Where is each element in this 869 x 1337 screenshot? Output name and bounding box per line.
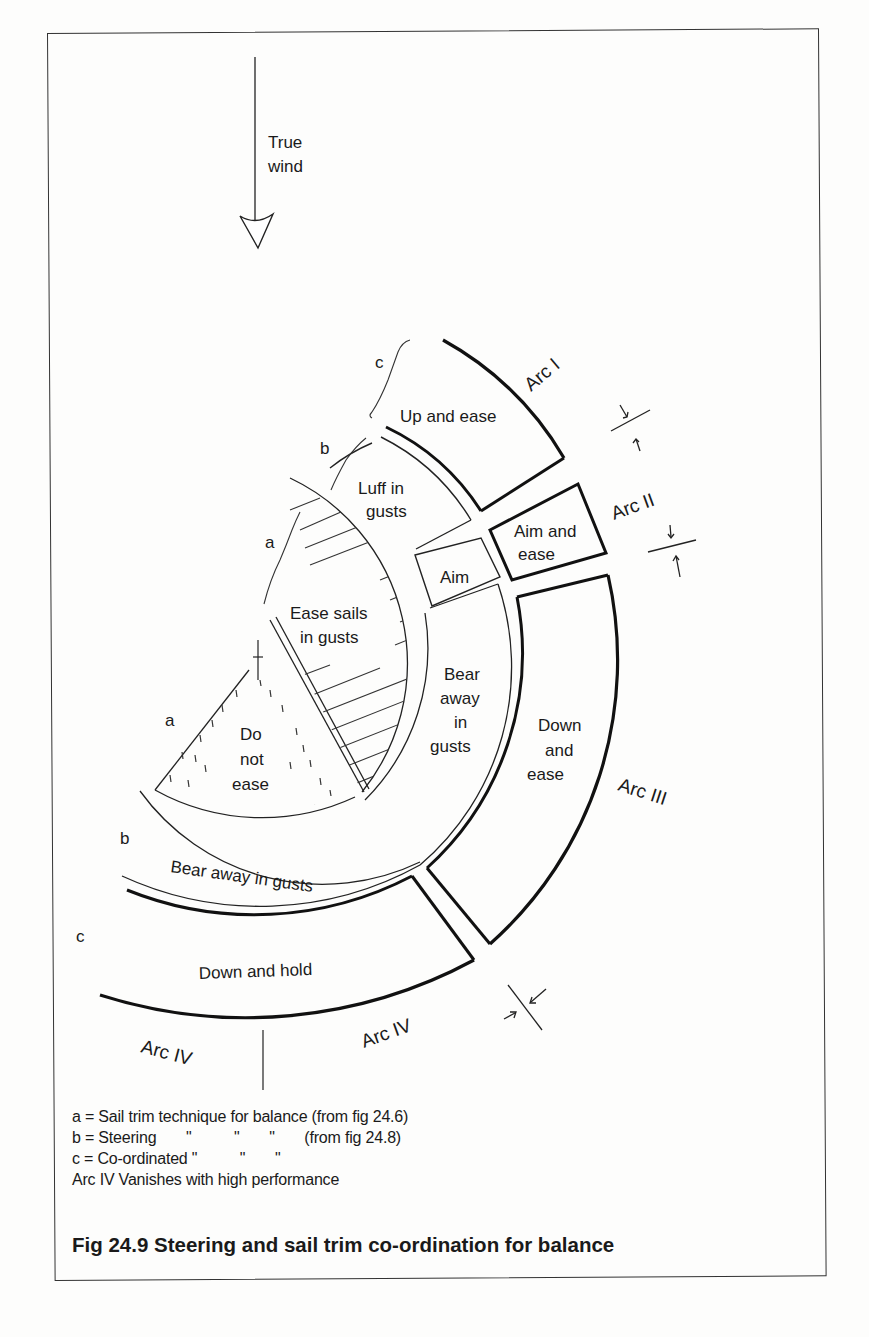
region-ease-sails-line2: in gusts bbox=[300, 628, 359, 647]
region-luff-line2: gusts bbox=[366, 502, 407, 521]
region-down-and-ease-line2: and bbox=[545, 741, 573, 760]
region-bear-away-line2: away bbox=[440, 689, 480, 708]
legend-line-arc4: Arc IV Vanishes with high performance bbox=[72, 1169, 408, 1190]
arc4-label-left: Arc IV bbox=[139, 1036, 195, 1070]
arc4-label-right: Arc IV bbox=[358, 1014, 414, 1052]
marker-c-lower: c bbox=[76, 927, 85, 946]
arc2-label: Arc II bbox=[608, 489, 657, 524]
region-down-and-ease-line1: Down bbox=[538, 716, 581, 735]
marker-b-upper: b bbox=[320, 439, 329, 458]
legend-line-a: a = Sail trim technique for balance (fro… bbox=[72, 1106, 408, 1127]
arc3-down-and-ease-region bbox=[427, 575, 618, 944]
wind-label-line2: wind bbox=[267, 157, 303, 176]
true-wind-arrow-icon bbox=[240, 57, 273, 248]
marker-a-upper: a bbox=[265, 533, 275, 552]
marker-a-lower: a bbox=[165, 711, 175, 730]
region-bear-away-line4: gusts bbox=[430, 737, 471, 756]
region-bear-away-line3: in bbox=[454, 713, 467, 732]
region-aim-and-ease-line1: Aim and bbox=[514, 522, 576, 541]
bracket-markers bbox=[264, 340, 410, 604]
arc3-label: Arc III bbox=[616, 774, 670, 809]
marker-b-lower: b bbox=[120, 829, 129, 848]
region-do-not-ease-line1: Do bbox=[240, 725, 262, 744]
arc2-arc3-boundary-marker bbox=[648, 525, 696, 577]
region-ease-sails-line1: Ease sails bbox=[290, 604, 367, 623]
marker-c-upper: c bbox=[375, 353, 384, 372]
arc1-label: Arc I bbox=[520, 354, 563, 395]
region-up-and-ease: Up and ease bbox=[400, 407, 496, 426]
region-bear-away-line1: Bear bbox=[444, 665, 480, 684]
bear-away-side-region bbox=[365, 584, 512, 865]
legend-line-c: c = Co-ordinated " " " bbox=[72, 1148, 408, 1169]
legend: a = Sail trim technique for balance (fro… bbox=[72, 1106, 408, 1190]
arc1-arc2-boundary-marker bbox=[611, 405, 650, 451]
region-do-not-ease-line3: ease bbox=[232, 775, 269, 794]
region-down-and-hold: Down and hold bbox=[198, 960, 312, 983]
region-down-and-ease-line3: ease bbox=[527, 765, 564, 784]
arc3-arc4-boundary-marker bbox=[504, 985, 546, 1030]
region-luff-line1: Luff in bbox=[358, 479, 404, 498]
figure-caption: Fig 24.9 Steering and sail trim co-ordin… bbox=[72, 1233, 614, 1257]
wind-label-line1: True bbox=[268, 133, 302, 152]
region-do-not-ease-line2: not bbox=[240, 750, 264, 769]
region-bear-away-in-gusts: Bear away in gusts bbox=[169, 857, 314, 896]
legend-line-b: b = Steering " " " (from fig 24.8) bbox=[72, 1127, 408, 1148]
region-aim: Aim bbox=[440, 568, 469, 587]
region-aim-and-ease-line2: ease bbox=[518, 545, 555, 564]
